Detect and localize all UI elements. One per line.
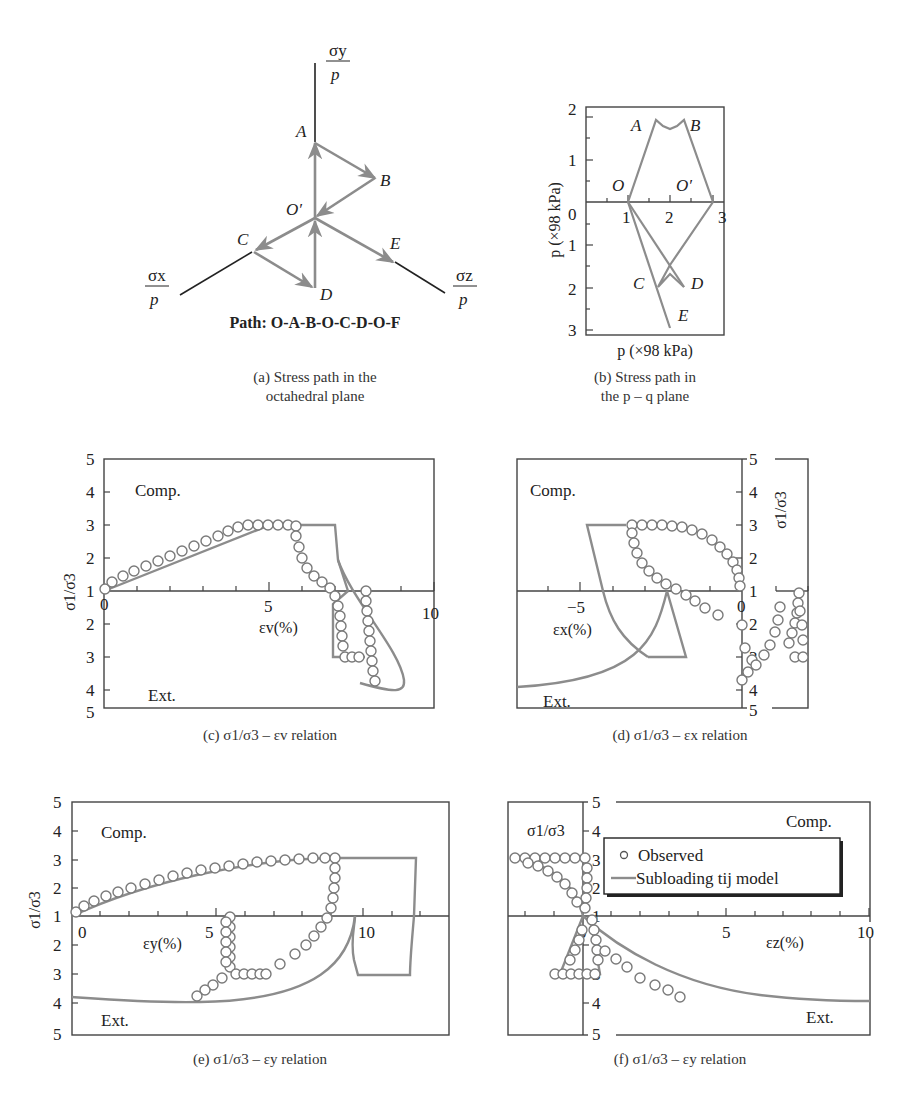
point-e-label: E — [389, 234, 401, 253]
svg-text:2: 2 — [53, 936, 62, 955]
ext-label: Ext. — [148, 686, 176, 705]
point-o-label: O — [612, 176, 624, 195]
path-sequence-label: Path: O-A-B-O-C-D-O-F — [229, 314, 400, 331]
ytick-0: 0 — [568, 205, 577, 224]
svg-text:2: 2 — [749, 549, 758, 568]
svg-text:4: 4 — [592, 994, 601, 1013]
sigma-y-numerator: σy — [329, 41, 347, 60]
caption-a-line2: octahedral plane — [200, 387, 430, 406]
caption-b: (b) Stress path in the p – q plane — [560, 368, 730, 406]
svg-text:5: 5 — [264, 597, 273, 616]
sigma-y-denominator: p — [330, 65, 340, 84]
svg-text:2: 2 — [86, 615, 95, 634]
svg-text:0: 0 — [78, 923, 87, 942]
point-d-label: D — [690, 274, 704, 293]
x-axis-label: εv(%) — [259, 619, 298, 637]
y-axis-label: σ1/σ3 — [772, 491, 789, 529]
panel-b-pq-plot: 2 1 0 1 2 3 1 2 3 A B O O′ C D E p (×98 … — [546, 100, 727, 360]
sigma-x-numerator: σx — [148, 266, 166, 285]
ext-label: Ext. — [101, 1011, 129, 1030]
legend: Observed Subloading tij model — [604, 838, 843, 897]
svg-text:5: 5 — [592, 1025, 601, 1044]
point-o-prime-label: O′ — [286, 200, 302, 219]
figure-canvas: A B O′ C D E σy p σx p σz p Path: O-A-B-… — [0, 0, 918, 1117]
svg-text:5: 5 — [749, 450, 758, 469]
y-axis-label: σ1/σ3 — [26, 891, 43, 929]
point-b-label: B — [690, 116, 701, 135]
sigma-z-denominator: p — [458, 290, 468, 309]
point-a-label: A — [630, 116, 642, 135]
comp-label: Comp. — [135, 481, 181, 500]
svg-text:4: 4 — [86, 681, 95, 700]
svg-text:5: 5 — [749, 701, 758, 720]
svg-text:5: 5 — [86, 703, 95, 722]
svg-text:3: 3 — [749, 516, 758, 535]
caption-e: (e) σ1/σ3 – εy relation — [140, 1050, 380, 1069]
observed-legend-marker — [621, 852, 628, 859]
y-axis-label: σ1/σ3 — [527, 822, 565, 839]
plot-frame — [586, 107, 724, 335]
observed-markers — [100, 520, 380, 686]
svg-text:−5: −5 — [567, 598, 585, 617]
svg-text:5: 5 — [53, 1025, 62, 1044]
svg-text:10: 10 — [422, 604, 439, 623]
sigma-x-denominator: p — [149, 290, 159, 309]
observed-markers — [627, 520, 808, 685]
svg-text:3: 3 — [86, 516, 95, 535]
svg-text:4: 4 — [53, 994, 62, 1013]
comp-label: Comp. — [530, 481, 576, 500]
caption-d: (d) σ1/σ3 – εx relation — [560, 726, 800, 745]
svg-text:2: 2 — [592, 879, 601, 898]
svg-text:2: 2 — [749, 615, 758, 634]
x-axis-label: εy(%) — [143, 935, 182, 953]
caption-b-line1: (b) Stress path in — [560, 368, 730, 387]
ext-label: Ext. — [543, 692, 571, 711]
caption-f: (f) σ1/σ3 – εy relation — [560, 1050, 800, 1069]
point-e-label: E — [677, 306, 689, 325]
svg-text:4: 4 — [53, 822, 62, 841]
svg-text:3: 3 — [86, 648, 95, 667]
svg-text:1: 1 — [749, 582, 758, 601]
panel-f-plot: 5432 1234 5 0510 εz(%) σ1/σ3 Comp. Ext. — [508, 793, 880, 1044]
svg-text:5: 5 — [86, 450, 95, 469]
svg-text:3: 3 — [53, 851, 62, 870]
svg-text:1: 1 — [86, 582, 95, 601]
svg-text:1: 1 — [53, 907, 62, 926]
ext-label: Ext. — [806, 1008, 834, 1027]
ytick-neg1: 1 — [568, 236, 577, 255]
y-axis-label: σ1/σ3 — [61, 573, 78, 611]
svg-text:5: 5 — [722, 923, 731, 942]
sigma-x-axis — [180, 252, 252, 295]
svg-text:2: 2 — [86, 549, 95, 568]
caption-c: (c) σ1/σ3 – εv relation — [150, 726, 390, 745]
svg-text:5: 5 — [592, 793, 601, 812]
caption-a-line1: (a) Stress path in the — [200, 368, 430, 387]
legend-observed: Observed — [638, 846, 704, 865]
svg-text:4: 4 — [749, 681, 758, 700]
y-axis-label: p (×98 kPa) — [546, 182, 564, 258]
panel-c-plot: 5432 1234 5 0510 εv(%) σ1/σ3 Comp. Ext. — [61, 450, 439, 722]
svg-text:4: 4 — [749, 483, 758, 502]
ytick-1: 1 — [568, 151, 577, 170]
x-axis-label: p (×98 kPa) — [617, 342, 693, 360]
point-d-label: D — [319, 285, 333, 304]
svg-text:4: 4 — [592, 822, 601, 841]
svg-text:2: 2 — [53, 879, 62, 898]
model-curve — [104, 525, 404, 690]
panel-a-octahedral-diagram: A B O′ C D E σy p σx p σz p Path: O-A-B-… — [145, 41, 477, 331]
ytick-neg3: 3 — [568, 321, 577, 340]
xtick-2: 2 — [665, 208, 674, 227]
x-axis-label: εz(%) — [766, 934, 804, 952]
svg-text:0: 0 — [100, 595, 109, 614]
svg-text:5: 5 — [53, 793, 62, 812]
x-axis-label: εx(%) — [553, 621, 592, 639]
ytick-neg2: 2 — [568, 280, 577, 299]
caption-b-line2: the p – q plane — [560, 387, 730, 406]
svg-text:4: 4 — [86, 483, 95, 502]
xtick-1: 1 — [622, 208, 631, 227]
comp-label: Comp. — [786, 812, 832, 831]
svg-text:10: 10 — [358, 923, 375, 942]
point-c-label: C — [633, 274, 645, 293]
svg-text:5: 5 — [205, 923, 214, 942]
legend-model: Subloading tij model — [636, 869, 779, 888]
